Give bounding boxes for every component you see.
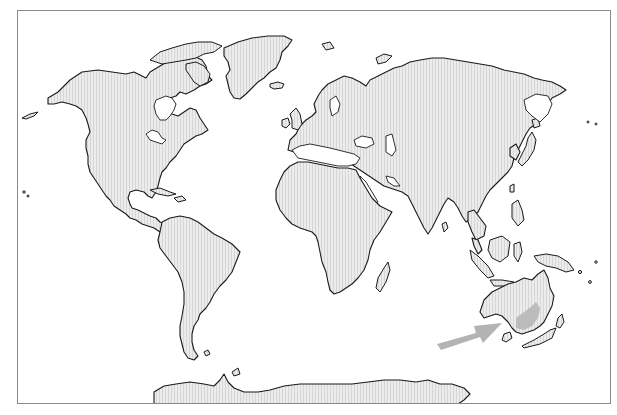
hawaii-islands — [23, 191, 25, 193]
ireland — [282, 118, 290, 128]
hawaii-islands — [27, 195, 29, 197]
malay-peninsula — [472, 238, 482, 254]
north-america — [48, 56, 212, 232]
aleutian-islands — [22, 112, 38, 119]
south-america — [158, 216, 240, 360]
tasmania — [502, 332, 512, 342]
world-map — [0, 0, 617, 415]
new-guinea — [534, 254, 574, 272]
taiwan — [510, 184, 514, 192]
pacific-island — [595, 261, 597, 263]
new-zealand-north — [556, 314, 564, 328]
sulawesi — [514, 242, 522, 262]
indochina — [468, 210, 486, 240]
sri-lanka — [442, 222, 448, 232]
borneo — [488, 236, 510, 262]
svalbard — [322, 42, 334, 50]
madagascar — [376, 262, 390, 292]
hispaniola — [174, 196, 186, 202]
south-shetland — [232, 368, 240, 376]
aleutian-islands — [595, 123, 597, 125]
pacific-island — [589, 281, 592, 284]
falklands — [204, 350, 210, 356]
aleutian-islands — [587, 121, 589, 123]
greenland — [224, 36, 292, 99]
great-britain — [290, 108, 302, 130]
philippines — [512, 200, 524, 226]
antarctica — [154, 374, 470, 404]
iceland — [270, 82, 284, 89]
africa — [276, 162, 392, 294]
novaya-zemlya — [376, 54, 392, 64]
annotation-arrow — [437, 323, 502, 350]
pacific-island — [578, 270, 581, 273]
